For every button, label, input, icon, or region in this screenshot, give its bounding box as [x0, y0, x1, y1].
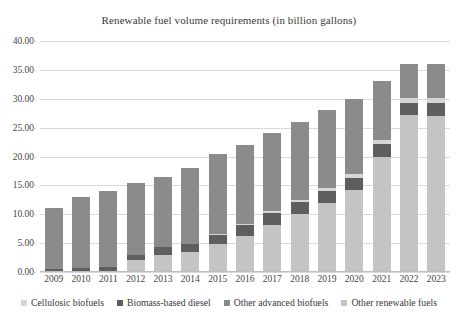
bar-segment[interactable]: [45, 208, 63, 269]
bar-segment[interactable]: [127, 255, 145, 261]
bar-stack[interactable]: [400, 41, 418, 272]
bar-segment[interactable]: [427, 64, 445, 98]
bar-segment[interactable]: [72, 197, 90, 268]
legend-label: Biomass-based diesel: [127, 297, 211, 308]
bar-segment[interactable]: [236, 225, 254, 236]
bars-layer: [40, 41, 450, 272]
bar-segment[interactable]: [209, 234, 227, 235]
bar-stack[interactable]: [236, 41, 254, 272]
x-axis-tick-label: 2019: [318, 274, 337, 284]
bar-stack[interactable]: [45, 41, 63, 272]
x-axis-tick-label: 2020: [345, 274, 364, 284]
bar-segment[interactable]: [318, 110, 336, 188]
bar-stack[interactable]: [209, 41, 227, 272]
bar-segment[interactable]: [291, 202, 309, 214]
bar-segment[interactable]: [181, 244, 199, 251]
x-axis-tick-label: 2011: [99, 274, 118, 284]
legend-swatch-icon: [117, 300, 123, 306]
chart-legend: Cellulosic biofuelsBiomass-based dieselO…: [0, 297, 458, 308]
bar-stack[interactable]: [99, 41, 117, 272]
bar-segment[interactable]: [99, 191, 117, 267]
legend-item[interactable]: Other renewable fuels: [341, 297, 437, 308]
bar-stack[interactable]: [291, 41, 309, 272]
bar-segment[interactable]: [345, 99, 363, 175]
bar-segment[interactable]: [291, 122, 309, 200]
bar-segment[interactable]: [263, 213, 281, 225]
bar-segment[interactable]: [373, 81, 391, 140]
chart-container: Renewable fuel volume requirements (in b…: [0, 0, 458, 312]
bar-segment[interactable]: [209, 244, 227, 272]
x-axis-tick-label: 2013: [154, 274, 173, 284]
bar-segment[interactable]: [400, 103, 418, 115]
bar-segment[interactable]: [318, 191, 336, 203]
x-axis-tick-label: 2012: [126, 274, 145, 284]
legend-item[interactable]: Other advanced biofuels: [224, 297, 329, 308]
x-axis-tick-label: 2018: [290, 274, 309, 284]
bar-segment[interactable]: [154, 255, 172, 272]
x-axis: 2009201020112012201320142015201620172018…: [40, 274, 450, 290]
y-axis-tick-label: 40.00: [13, 36, 34, 46]
bar-segment[interactable]: [373, 144, 391, 156]
bar-stack[interactable]: [127, 41, 145, 272]
legend-label: Cellulosic biofuels: [31, 297, 104, 308]
bar-stack[interactable]: [427, 41, 445, 272]
bar-segment[interactable]: [209, 154, 227, 234]
bar-segment[interactable]: [291, 214, 309, 272]
x-axis-tick-label: 2023: [427, 274, 446, 284]
legend-item[interactable]: Biomass-based diesel: [117, 297, 211, 308]
bar-stack[interactable]: [263, 41, 281, 272]
bar-segment[interactable]: [154, 247, 172, 254]
bar-segment[interactable]: [400, 115, 418, 272]
y-axis-tick: [32, 128, 36, 129]
bar-segment[interactable]: [318, 203, 336, 272]
x-axis-tick-label: 2021: [372, 274, 391, 284]
y-axis-tick: [32, 185, 36, 186]
bar-segment[interactable]: [236, 224, 254, 225]
bar-segment[interactable]: [263, 225, 281, 272]
y-axis-tick-label: 35.00: [13, 65, 34, 75]
bar-segment[interactable]: [181, 168, 199, 244]
y-axis-tick: [32, 214, 36, 215]
bar-segment[interactable]: [373, 140, 391, 144]
x-axis-tick-label: 2015: [208, 274, 227, 284]
bar-segment[interactable]: [427, 98, 445, 103]
bar-segment[interactable]: [236, 145, 254, 224]
legend-item[interactable]: Cellulosic biofuels: [21, 297, 104, 308]
x-axis-tick-label: 2016: [236, 274, 255, 284]
bar-stack[interactable]: [373, 41, 391, 272]
x-axis-tick-label: 2010: [72, 274, 91, 284]
x-axis-line: [40, 271, 450, 272]
bar-stack[interactable]: [181, 41, 199, 272]
bar-segment[interactable]: [345, 174, 363, 177]
y-axis-tick: [32, 70, 36, 71]
bar-segment[interactable]: [400, 98, 418, 103]
bar-segment[interactable]: [263, 133, 281, 211]
y-axis-tick: [32, 272, 36, 273]
legend-label: Other renewable fuels: [351, 297, 437, 308]
bar-segment[interactable]: [209, 234, 227, 244]
bar-segment[interactable]: [373, 157, 391, 273]
bar-stack[interactable]: [345, 41, 363, 272]
bar-segment[interactable]: [427, 103, 445, 115]
x-axis-tick-label: 2009: [44, 274, 63, 284]
y-axis-tick: [32, 41, 36, 42]
bar-segment[interactable]: [400, 64, 418, 98]
bar-segment[interactable]: [236, 236, 254, 272]
bar-segment[interactable]: [345, 190, 363, 272]
bar-segment[interactable]: [427, 116, 445, 273]
bar-segment[interactable]: [263, 211, 281, 213]
bar-segment[interactable]: [127, 183, 145, 255]
y-axis-tick-label: 30.00: [13, 94, 34, 104]
bar-segment[interactable]: [181, 252, 199, 272]
bar-segment[interactable]: [345, 178, 363, 190]
legend-swatch-icon: [341, 300, 347, 306]
bar-stack[interactable]: [154, 41, 172, 272]
bar-stack[interactable]: [318, 41, 336, 272]
bar-stack[interactable]: [72, 41, 90, 272]
bar-segment[interactable]: [318, 188, 336, 191]
x-axis-tick-label: 2022: [400, 274, 419, 284]
gridline: [40, 272, 450, 273]
bar-segment[interactable]: [154, 177, 172, 248]
bar-segment[interactable]: [291, 200, 309, 202]
plot-area: [40, 41, 450, 272]
